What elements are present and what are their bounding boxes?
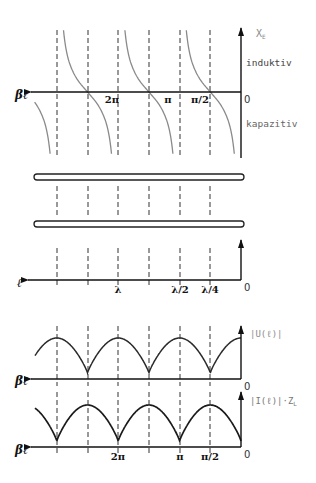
reactance-origin-label: 0 [244, 94, 250, 105]
tick-label: λ/2 [171, 284, 189, 295]
current-dashed-gridlines [57, 392, 210, 454]
reactance-x-axis-label: βℓ [14, 88, 28, 102]
line-dashed-gridlines [57, 186, 210, 285]
current-plot: |I(ℓ)|·ZL βℓ 0 2πππ/2 [14, 392, 297, 462]
length-x-axis-label: ℓ [17, 276, 22, 290]
voltage-plot: |U(ℓ)| βℓ 0 [14, 326, 283, 392]
reactance-plot: XE induktiv kapazitiv 0 βℓ 2πππ/2 [14, 28, 298, 158]
voltage-y-axis-label: |U(ℓ)| [250, 329, 283, 339]
voltage-x-axis-label: βℓ [14, 374, 28, 388]
reactance-branch-curve [35, 102, 51, 154]
current-origin-label: 0 [244, 449, 250, 460]
transmission-line-diagram: XE induktiv kapazitiv 0 βℓ 2πππ/2 ℓ 0 λλ… [0, 0, 316, 483]
tick-label: λ [114, 284, 121, 295]
current-x-axis-label: βℓ [14, 443, 28, 457]
reactance-y-axis-label: XE [256, 28, 266, 40]
reactance-dashed-gridlines [57, 30, 210, 156]
tick-label: π/2 [201, 451, 219, 462]
region-label-inductive: induktiv [246, 57, 292, 68]
tick-label: 2π [111, 451, 125, 462]
tick-label: π/2 [191, 94, 209, 105]
current-y-axis-label: |I(ℓ)|·ZL [250, 396, 297, 407]
region-label-capacitive: kapazitiv [246, 118, 298, 129]
voltage-origin-label: 0 [244, 381, 250, 392]
tick-label: π [176, 451, 183, 462]
tick-label: 2π [105, 94, 119, 105]
conductor-top [34, 174, 244, 180]
reactance-tick-labels: 2πππ/2 [105, 94, 209, 105]
conductor-bottom [34, 221, 244, 227]
wavelength-tick-labels: λλ/2λ/4 [114, 284, 218, 295]
transmission-line: ℓ 0 λλ/2λ/4 [17, 174, 250, 295]
current-tick-labels: 2πππ/2 [111, 451, 219, 462]
tick-label: λ/4 [201, 284, 219, 295]
length-origin-label: 0 [244, 282, 250, 293]
tick-label: π [164, 94, 171, 105]
voltage-dashed-gridlines [57, 326, 210, 386]
